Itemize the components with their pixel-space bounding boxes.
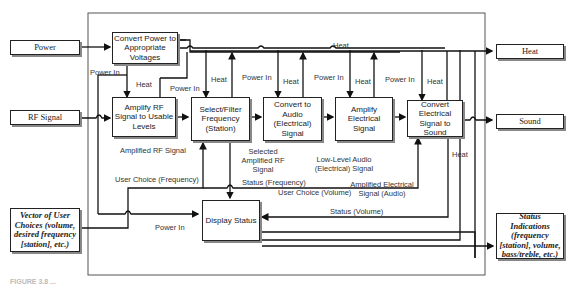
figure-caption: FIGURE 3.8 ... <box>10 278 56 285</box>
heat-label-2: Heat <box>211 75 227 84</box>
convert-power-label: Convert Power to Appropriate Voltages <box>113 34 177 63</box>
select-filter-label: Select/Filter Frequency (Station) <box>192 105 249 134</box>
sound-output-label: Sound <box>519 117 541 127</box>
heat-output-label: Heat <box>522 47 538 57</box>
low-level-audio-label: Low-Level Audio (Electrical) Signal <box>308 155 380 173</box>
status-indications-output-box: Status Indications (frequency [station],… <box>496 213 564 259</box>
select-filter-box: Select/Filter Frequency (Station) <box>191 97 250 141</box>
sound-output-box: Sound <box>496 114 564 129</box>
flow-lines <box>0 0 577 288</box>
amplify-electrical-box: Amplify Electrical Signal <box>335 97 393 141</box>
convert-audio-label: Convert to Audio (Electrical) Signal <box>264 100 321 138</box>
power-in-label-4: Power In <box>314 73 344 82</box>
user-choices-label: Vector of User Choices (volume, desired … <box>13 211 77 249</box>
status-frequency-label: Status (Frequency) <box>242 178 306 187</box>
power-label: Power <box>34 43 56 53</box>
status-indications-label: Status Indications (frequency [station],… <box>499 212 561 260</box>
heat-label-3: Heat <box>283 77 299 86</box>
power-in-display-label: Power In <box>155 223 185 232</box>
amplified-rf-label: Amplified RF Signal <box>120 146 186 155</box>
rf-signal-input-box: RF Signal <box>10 110 80 125</box>
user-choices-input-box: Vector of User Choices (volume, desired … <box>10 208 80 252</box>
amplify-rf-label: Amplify RF Signal to Usable Levels <box>113 103 175 132</box>
convert-power-box: Convert Power to Appropriate Voltages <box>112 32 178 64</box>
power-in-label-3: Power In <box>242 73 272 82</box>
heat-label-1: Heat <box>136 80 152 89</box>
power-input-box: Power <box>10 40 80 55</box>
display-status-box: Display Status <box>202 200 260 241</box>
amplified-electrical-label: Amplified Electrical Signal (Audio) <box>350 180 414 198</box>
user-choice-volume-label: User Choice (Volume) <box>278 188 351 197</box>
convert-audio-box: Convert to Audio (Electrical) Signal <box>263 97 322 141</box>
status-volume-label: Status (Volume) <box>330 207 383 216</box>
power-in-label-1: Power In <box>90 68 120 77</box>
display-status-label: Display Status <box>205 216 256 226</box>
heat-label-5: Heat <box>427 77 443 86</box>
heat-top-label: Heat <box>333 41 349 50</box>
power-in-label-5: Power In <box>385 75 415 84</box>
power-in-label-2: Power In <box>170 84 200 93</box>
selected-amplified-rf-label: Selected Amplified RF Signal <box>233 147 293 174</box>
heat-label-4: Heat <box>355 77 371 86</box>
heat-display-label: Heat <box>452 150 468 159</box>
convert-sound-label: Convert Electrical Signal to Sound <box>408 100 462 138</box>
user-choice-frequency-label: User Choice (Frequency) <box>115 175 199 184</box>
rf-signal-label: RF Signal <box>28 113 62 123</box>
amplify-rf-box: Amplify RF Signal to Usable Levels <box>112 97 176 137</box>
amplify-electrical-label: Amplify Electrical Signal <box>336 105 392 134</box>
heat-output-box: Heat <box>496 44 564 59</box>
convert-sound-box: Convert Electrical Signal to Sound <box>407 100 463 137</box>
